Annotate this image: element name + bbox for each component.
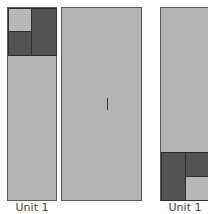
left-top-dark-cell-right [31, 8, 57, 56]
left-top-light-cell [8, 8, 32, 32]
middle-panel [61, 7, 142, 201]
left-top-dark-cell-bottom [8, 31, 32, 56]
left-panel [7, 7, 57, 201]
right-bottom-light-cell [185, 176, 208, 201]
left-unit-label: Unit 1 [2, 201, 62, 214]
right-panel [160, 7, 208, 201]
right-bottom-dark-cell-left [161, 152, 186, 201]
right-unit-label: Unit 1 [155, 201, 208, 214]
text-cursor-icon [107, 98, 108, 110]
right-bottom-dark-cell-top [185, 152, 208, 177]
